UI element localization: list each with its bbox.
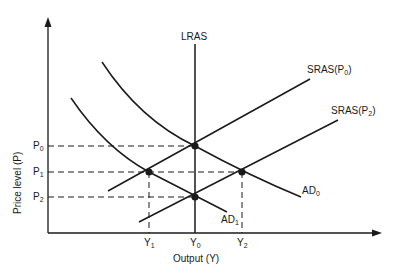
lras-label: LRAS bbox=[181, 32, 207, 42]
point-y1-p1 bbox=[145, 168, 152, 175]
tick-y1: Y1 bbox=[144, 238, 155, 249]
sras-p2-line bbox=[139, 120, 338, 222]
sras-p2-tail: ) bbox=[372, 105, 375, 116]
ad1-main: AD bbox=[221, 214, 235, 225]
tick-p2: P2 bbox=[33, 192, 44, 203]
guide-lines bbox=[48, 146, 242, 233]
point-y0-p0 bbox=[191, 142, 198, 149]
tick-p2-main: P bbox=[33, 191, 40, 202]
ad0-label: AD0 bbox=[302, 186, 320, 197]
ad1-sub: 1 bbox=[235, 219, 239, 226]
tick-p0: P0 bbox=[33, 141, 44, 152]
ad0-curve bbox=[102, 62, 301, 197]
tick-y2-sub: 2 bbox=[244, 242, 248, 249]
tick-p0-sub: 0 bbox=[40, 145, 44, 152]
tick-p1-sub: 1 bbox=[40, 171, 44, 178]
x-axis-label: Output (Y) bbox=[173, 254, 219, 264]
tick-p2-sub: 2 bbox=[40, 196, 44, 203]
sras-p2-main: SRAS(P bbox=[331, 105, 368, 116]
axes bbox=[48, 24, 374, 233]
tick-p1: P1 bbox=[33, 167, 44, 178]
point-y0-p2 bbox=[191, 193, 198, 200]
tick-y0-main: Y bbox=[190, 237, 197, 248]
ad1-label: AD1 bbox=[221, 215, 239, 226]
sras-p0-line bbox=[108, 79, 310, 191]
sras-p2-label: SRAS(P2) bbox=[331, 106, 375, 117]
tick-y2: Y2 bbox=[237, 238, 248, 249]
tick-y1-main: Y bbox=[144, 237, 151, 248]
tick-y2-main: Y bbox=[237, 237, 244, 248]
y-axis-label: Price level (P) bbox=[12, 152, 23, 214]
tick-p0-main: P bbox=[33, 140, 40, 151]
ad0-sub: 0 bbox=[316, 190, 320, 197]
sras-p0-tail: ) bbox=[348, 64, 351, 75]
sras-p0-label: SRAS(P0) bbox=[307, 65, 351, 76]
point-y2-p1 bbox=[238, 168, 245, 175]
tick-y0: Y0 bbox=[190, 238, 201, 249]
ad0-main: AD bbox=[302, 185, 316, 196]
tick-y1-sub: 1 bbox=[151, 242, 155, 249]
sras-p0-main: SRAS(P bbox=[307, 64, 344, 75]
tick-y0-sub: 0 bbox=[197, 242, 201, 249]
tick-p1-main: P bbox=[33, 166, 40, 177]
y-axis-arrow-icon bbox=[45, 17, 52, 27]
x-axis-arrow-icon bbox=[372, 230, 382, 237]
